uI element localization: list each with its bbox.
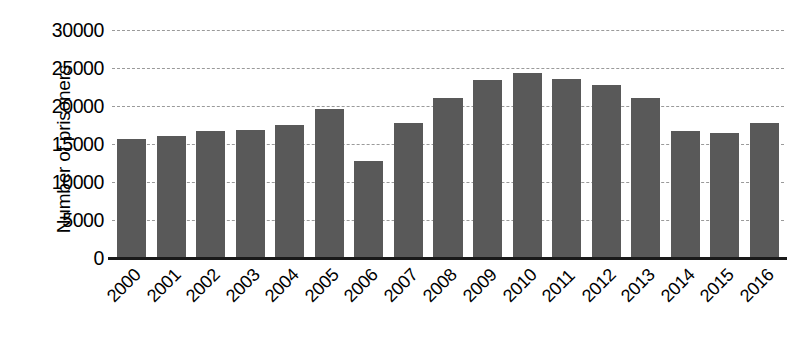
bar xyxy=(552,79,581,258)
bar xyxy=(710,133,739,258)
x-tick-label: 2003 xyxy=(222,265,264,307)
x-tick-label: 2010 xyxy=(499,265,541,307)
y-tick-label: 20000 xyxy=(0,95,104,118)
x-tick-label: 2014 xyxy=(657,265,699,307)
bar-series xyxy=(112,30,784,258)
bar xyxy=(473,80,502,258)
x-axis-line xyxy=(108,257,787,260)
bar xyxy=(236,130,265,258)
x-axis-tick-labels: 2000200120022003200420052006200720082009… xyxy=(112,262,792,340)
x-tick-label: 2001 xyxy=(143,265,185,307)
bar xyxy=(117,139,146,258)
x-tick-label: 2008 xyxy=(419,265,461,307)
y-tick-label: 0 xyxy=(0,247,104,270)
bar xyxy=(315,109,344,258)
bar-chart: Number of prisoners 05000100001500020000… xyxy=(0,0,803,340)
y-tick-label: 30000 xyxy=(0,19,104,42)
y-tick-label: 10000 xyxy=(0,171,104,194)
x-tick-label: 2004 xyxy=(261,265,303,307)
bar xyxy=(592,85,621,258)
bar xyxy=(671,131,700,258)
bar xyxy=(394,123,423,258)
bar xyxy=(750,123,779,258)
x-tick-label: 2015 xyxy=(696,265,738,307)
x-tick-label: 2006 xyxy=(340,265,382,307)
x-tick-label: 2009 xyxy=(459,265,501,307)
bar xyxy=(631,98,660,258)
x-tick-label: 2011 xyxy=(538,265,579,306)
bar xyxy=(354,161,383,258)
bar xyxy=(157,136,186,258)
y-axis-tick-labels: 050001000015000200002500030000 xyxy=(0,0,104,340)
bar xyxy=(275,125,304,258)
bar xyxy=(513,73,542,258)
x-tick-label: 2002 xyxy=(182,265,224,307)
bar xyxy=(196,131,225,258)
plot-area xyxy=(112,30,784,258)
x-tick-label: 2000 xyxy=(103,265,145,307)
x-tick-label: 2012 xyxy=(578,265,620,307)
y-tick-label: 25000 xyxy=(0,57,104,80)
bar xyxy=(433,98,462,258)
x-tick-label: 2013 xyxy=(617,265,659,307)
x-tick-label: 2016 xyxy=(736,265,778,307)
x-tick-label: 2007 xyxy=(380,265,422,307)
y-tick-label: 15000 xyxy=(0,133,104,156)
x-tick-label: 2005 xyxy=(301,265,343,307)
y-tick-label: 5000 xyxy=(0,209,104,232)
